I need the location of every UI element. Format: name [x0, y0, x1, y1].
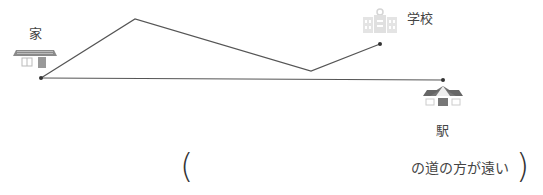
close-paren: ) — [516, 146, 529, 186]
point-school — [378, 42, 382, 46]
route-home-to-station — [41, 78, 443, 80]
answer-blank[interactable] — [200, 152, 400, 180]
answer-suffix: の道の方が遠い — [411, 157, 509, 177]
open-paren: ( — [180, 146, 193, 186]
route-home-to-school — [41, 19, 380, 78]
house-icon — [13, 50, 57, 68]
point-station — [441, 78, 445, 82]
home-label: 家 — [29, 23, 42, 42]
station-label: 駅 — [436, 120, 449, 139]
school-label: 学校 — [407, 8, 433, 27]
school-icon — [363, 9, 397, 33]
point-home — [39, 76, 43, 80]
station-icon — [423, 86, 463, 106]
